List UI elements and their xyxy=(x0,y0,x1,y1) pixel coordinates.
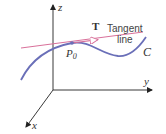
point-p0-label-sub: 0 xyxy=(73,52,77,61)
x-axis-label: x xyxy=(32,120,37,131)
tangent-vector-label: T xyxy=(92,21,99,32)
y-axis-label: y xyxy=(144,76,149,87)
diagram-canvas xyxy=(0,0,166,134)
curve-c-label: C xyxy=(143,46,151,58)
z-axis-label: z xyxy=(58,2,62,13)
tangent-line-label-2: line xyxy=(117,35,133,45)
x-axis xyxy=(26,90,53,127)
point-p0-label: P0 xyxy=(66,48,77,61)
tangent-line-label-1: Tangent xyxy=(107,24,143,34)
tangent-line-diagram: z y x T Tangent line P0 C xyxy=(0,0,166,134)
point-p0-dot xyxy=(70,41,74,45)
point-p0-label-main: P xyxy=(66,47,73,59)
